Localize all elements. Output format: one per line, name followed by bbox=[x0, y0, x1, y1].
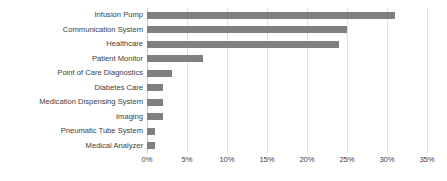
bar bbox=[147, 26, 347, 33]
category-axis-labels: Infusion Pump Communication System Healt… bbox=[0, 8, 143, 153]
bar-row bbox=[147, 139, 427, 154]
category-label: Communication System bbox=[0, 23, 143, 38]
bar-chart: Infusion Pump Communication System Healt… bbox=[0, 0, 447, 181]
x-tick-label: 25% bbox=[339, 155, 354, 164]
category-label: Medication Dispensing System bbox=[0, 95, 143, 110]
category-label: Pneumatic Tube System bbox=[0, 124, 143, 139]
x-tick-label: 0% bbox=[142, 155, 153, 164]
x-tick-label: 5% bbox=[182, 155, 193, 164]
category-label: Diabetes Care bbox=[0, 81, 143, 96]
bar-row bbox=[147, 52, 427, 67]
bar-row bbox=[147, 95, 427, 110]
bar-row bbox=[147, 37, 427, 52]
category-label: Healthcare bbox=[0, 37, 143, 52]
bar bbox=[147, 55, 203, 62]
bar-row bbox=[147, 8, 427, 23]
category-label: Patient Monitor bbox=[0, 52, 143, 67]
bar bbox=[147, 113, 163, 120]
category-label: Point of Care Diagnostics bbox=[0, 66, 143, 81]
bar bbox=[147, 128, 155, 135]
bar bbox=[147, 41, 339, 48]
x-tick-label: 35% bbox=[419, 155, 434, 164]
category-label: Medical Analyzer bbox=[0, 139, 143, 154]
x-tick-label: 30% bbox=[379, 155, 394, 164]
bar-row bbox=[147, 124, 427, 139]
bar bbox=[147, 84, 163, 91]
bar-row bbox=[147, 66, 427, 81]
x-tick-label: 20% bbox=[299, 155, 314, 164]
bar-row bbox=[147, 23, 427, 38]
bar-row bbox=[147, 110, 427, 125]
x-tick-label: 15% bbox=[259, 155, 274, 164]
bar bbox=[147, 70, 172, 77]
category-label: Infusion Pump bbox=[0, 8, 143, 23]
category-label: Imaging bbox=[0, 110, 143, 125]
bar bbox=[147, 12, 395, 19]
bars-layer bbox=[147, 8, 427, 153]
bar-row bbox=[147, 81, 427, 96]
plot-area bbox=[147, 8, 427, 153]
gridline bbox=[427, 8, 428, 153]
x-axis-labels: 0%5%10%15%20%25%30%35% bbox=[147, 155, 427, 171]
bar bbox=[147, 142, 155, 149]
x-tick-label: 10% bbox=[219, 155, 234, 164]
bar bbox=[147, 99, 163, 106]
